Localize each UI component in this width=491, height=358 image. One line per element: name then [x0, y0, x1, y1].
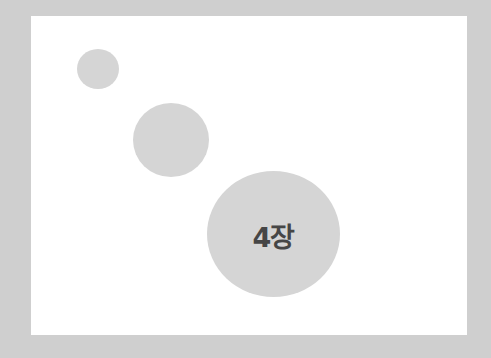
medium-circle: [133, 103, 209, 177]
large-circle: 4장: [207, 171, 340, 297]
diagram-panel: 4장: [31, 16, 467, 335]
chapter-label: 4장: [253, 216, 295, 255]
small-circle: [77, 49, 119, 89]
